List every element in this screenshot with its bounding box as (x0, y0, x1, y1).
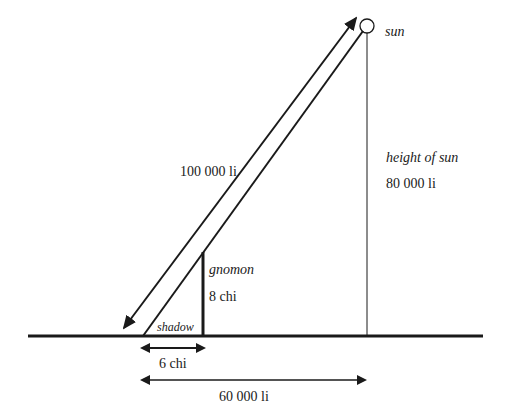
gnomon-label: gnomon (209, 263, 254, 277)
sun-ray-line (143, 31, 363, 336)
ground-distance-label: 60 000 li (219, 390, 269, 404)
sun-label: sun (385, 25, 404, 39)
height-value-label: 80 000 li (386, 177, 436, 191)
gnomon-height-label: 8 chi (209, 290, 237, 304)
hypotenuse-arrow (124, 18, 356, 328)
diagram-canvas (0, 0, 507, 419)
height-of-sun-label: height of sun (386, 151, 458, 165)
shadow-label: shadow (157, 321, 194, 333)
shadow-length-label: 6 chi (159, 357, 187, 371)
hypotenuse-value-label: 100 000 li (180, 165, 237, 179)
